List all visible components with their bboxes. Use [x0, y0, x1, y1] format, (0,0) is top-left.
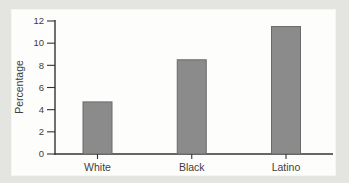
bar-black: [177, 60, 206, 154]
y-tick-label: 10: [33, 37, 44, 48]
x-tick-label: Black: [179, 161, 205, 173]
bar-chart: 024681012PercentageWhiteBlackLatino: [0, 0, 349, 183]
y-tick-label: 4: [39, 104, 44, 115]
y-tick-label: 2: [39, 126, 44, 137]
y-tick-label: 8: [39, 60, 44, 71]
figure-page: 024681012PercentageWhiteBlackLatino: [0, 0, 349, 183]
bar-white: [83, 102, 112, 154]
x-tick-label: Latino: [272, 161, 301, 173]
y-tick-label: 0: [39, 148, 44, 159]
y-axis-title: Percentage: [13, 60, 25, 114]
y-tick-label: 12: [33, 15, 44, 26]
y-tick-label: 6: [39, 82, 44, 93]
x-tick-label: White: [84, 161, 111, 173]
bar-latino: [272, 27, 301, 154]
